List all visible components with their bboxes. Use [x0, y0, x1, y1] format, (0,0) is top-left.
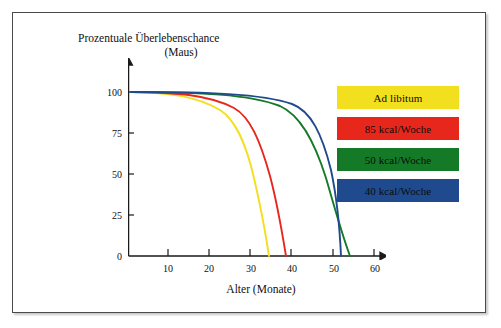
x-tick-label-30: 30: [239, 264, 263, 274]
y-tick-label-50: 50: [96, 170, 122, 180]
legend-label-85-kcal: 85 kcal/Woche: [365, 123, 432, 135]
x-tick-label-40: 40: [280, 264, 304, 274]
curve-ad-libitum: [131, 92, 269, 256]
x-tick-label-10: 10: [156, 264, 180, 274]
y-tick-label-25: 25: [96, 211, 122, 221]
x-tick-label-20: 20: [197, 264, 221, 274]
legend-label-40-kcal: 40 kcal/Woche: [365, 185, 432, 197]
curve-40-kcal: [131, 92, 341, 256]
x-tick-label-50: 50: [322, 264, 346, 274]
y-tick-marks: [129, 92, 134, 215]
chart-title-line2: (Maus): [78, 45, 284, 59]
figure-page: Prozentuale Überlebenschance (Maus) 100 …: [0, 0, 501, 328]
x-axis-caption: Alter (Monate): [186, 283, 336, 295]
y-tick-label-100: 100: [96, 88, 122, 98]
legend-label-50-kcal: 50 kcal/Woche: [365, 154, 432, 166]
y-tick-label-0: 0: [96, 252, 122, 262]
legend-item-50-kcal: 50 kcal/Woche: [337, 148, 459, 171]
legend: Ad libitum 85 kcal/Woche 50 kcal/Woche 4…: [337, 86, 459, 210]
chart-title-line1: Prozentuale Überlebenschance: [78, 32, 219, 44]
legend-item-40-kcal: 40 kcal/Woche: [337, 179, 459, 202]
curve-50-kcal: [131, 92, 350, 256]
legend-label-ad-libitum: Ad libitum: [374, 92, 423, 104]
x-tick-label-60: 60: [363, 264, 387, 274]
chart-title: Prozentuale Überlebenschance (Maus): [78, 31, 318, 59]
y-tick-label-75: 75: [96, 129, 122, 139]
legend-item-85-kcal: 85 kcal/Woche: [337, 117, 459, 140]
legend-item-ad-libitum: Ad libitum: [337, 86, 459, 109]
x-tick-marks: [168, 249, 374, 256]
curve-85-kcal: [131, 92, 286, 256]
